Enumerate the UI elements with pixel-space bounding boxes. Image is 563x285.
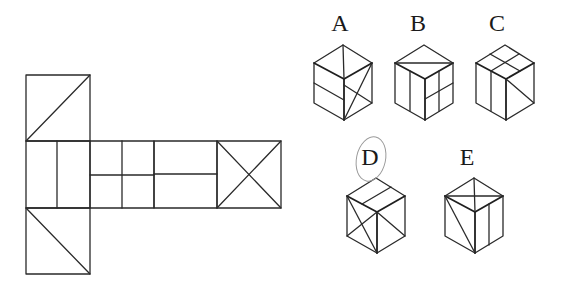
net-face-bottom: [26, 208, 90, 274]
option-label-a[interactable]: A: [331, 11, 348, 35]
cube-option-c[interactable]: [476, 45, 534, 120]
puzzle-canvas: [0, 0, 563, 285]
cube-option-d[interactable]: [347, 178, 405, 253]
cube-option-a[interactable]: [314, 45, 372, 120]
net-face-top: [26, 75, 90, 141]
cube-net: [26, 75, 281, 274]
net-face-left: [26, 141, 90, 208]
cube-option-b[interactable]: [395, 45, 453, 120]
net-face-far-right: [217, 141, 281, 208]
net-face-right: [154, 141, 217, 208]
option-label-c[interactable]: C: [489, 11, 505, 35]
cube-option-e[interactable]: [445, 178, 503, 253]
option-label-b[interactable]: B: [410, 11, 426, 35]
option-label-e[interactable]: E: [460, 145, 475, 169]
net-face-center: [90, 141, 154, 208]
